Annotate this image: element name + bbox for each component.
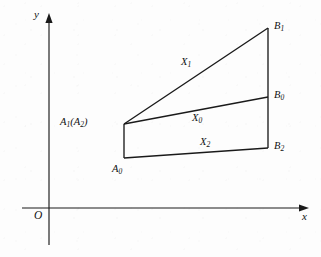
x-axis-label: x: [302, 211, 307, 222]
point-label-A1-A2: A1(A2): [60, 117, 87, 129]
origin-label: O: [34, 210, 42, 222]
point-label-B0: B0: [274, 90, 284, 102]
point-label-B2: B2: [274, 141, 284, 153]
geometry-figure: y x O A0 A1(A2) B0 B1 B2 X1 X0 X2: [0, 0, 321, 257]
point-label-A0: A0: [112, 164, 122, 176]
segment-A0-B2: [124, 148, 268, 158]
point-label-B1: B1: [274, 21, 284, 33]
y-axis-label: y: [34, 9, 39, 20]
segment-label-X1: X1: [181, 57, 191, 69]
diagram-canvas: [0, 0, 321, 257]
segment-A1-B1: [124, 28, 268, 124]
segment-label-X0: X0: [192, 113, 202, 125]
segment-label-X2: X2: [200, 137, 210, 149]
y-axis-arrowhead: [45, 13, 52, 23]
